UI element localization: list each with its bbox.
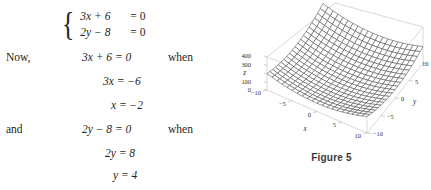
y-tick-neg10: −10: [373, 130, 383, 137]
z-axis-label: z: [242, 69, 246, 77]
page-root: { 3x + 6 = 0 2y − 8 = 0 Now, 3x + 6 = 0 …: [0, 0, 431, 190]
when-label-2: when: [168, 124, 193, 136]
equation-system: { 3x + 6 = 0 2y − 8 = 0: [62, 8, 145, 40]
equation-now: 3x + 6 = 0: [82, 52, 131, 64]
z-tick-400: 400: [241, 52, 251, 59]
system-row-1-lhs: 3x + 6: [80, 8, 130, 24]
x-tick-neg5: −5: [279, 100, 286, 107]
x-tick-10: 10: [355, 132, 361, 139]
y-tick-0: 0: [401, 95, 404, 102]
x-tick-neg10: −10: [251, 89, 261, 96]
x-tick-5: 5: [333, 121, 336, 128]
left-brace-glyph: {: [62, 8, 74, 40]
equation-now-step-1: 3x = −6: [103, 76, 141, 88]
equation-and-step-2: y = 4: [113, 170, 137, 182]
z-axis-ticks: [264, 56, 267, 90]
now-label: Now,: [6, 52, 31, 64]
y-tick-5: 5: [415, 78, 418, 85]
equation-system-row: 3x + 6 = 0: [80, 8, 145, 24]
figure-pane: 400 300 100 0 z −10 −5 0 5 10 x: [232, 0, 431, 190]
figure-caption: Figure 5: [232, 152, 431, 163]
equation-now-step-2: x = −2: [111, 100, 143, 112]
y-tick-10: 10: [422, 60, 428, 67]
z-tick-300: 300: [241, 61, 251, 68]
y-axis-label: y: [412, 98, 417, 106]
system-row-1-rhs: = 0: [130, 8, 145, 24]
surface-plot-svg: 400 300 100 0 z −10 −5 0 5 10 x: [232, 0, 431, 156]
surface-plot: 400 300 100 0 z −10 −5 0 5 10 x: [232, 0, 431, 156]
and-label: and: [6, 124, 23, 136]
algebra-work-pane: { 3x + 6 = 0 2y − 8 = 0 Now, 3x + 6 = 0 …: [0, 0, 232, 190]
when-label-1: when: [168, 52, 193, 64]
system-row-2-rhs: = 0: [130, 24, 145, 40]
equation-and-step-1: 2y = 8: [105, 148, 135, 160]
y-tick-neg5: −5: [387, 113, 394, 120]
x-axis-label: x: [302, 125, 307, 133]
x-tick-0: 0: [308, 111, 311, 118]
z-tick-100: 100: [241, 78, 251, 85]
system-row-2-lhs: 2y − 8: [80, 24, 130, 40]
equation-system-row: 2y − 8 = 0: [80, 24, 145, 40]
equation-and: 2y − 8 = 0: [82, 124, 131, 136]
equation-system-rows: 3x + 6 = 0 2y − 8 = 0: [77, 8, 145, 40]
